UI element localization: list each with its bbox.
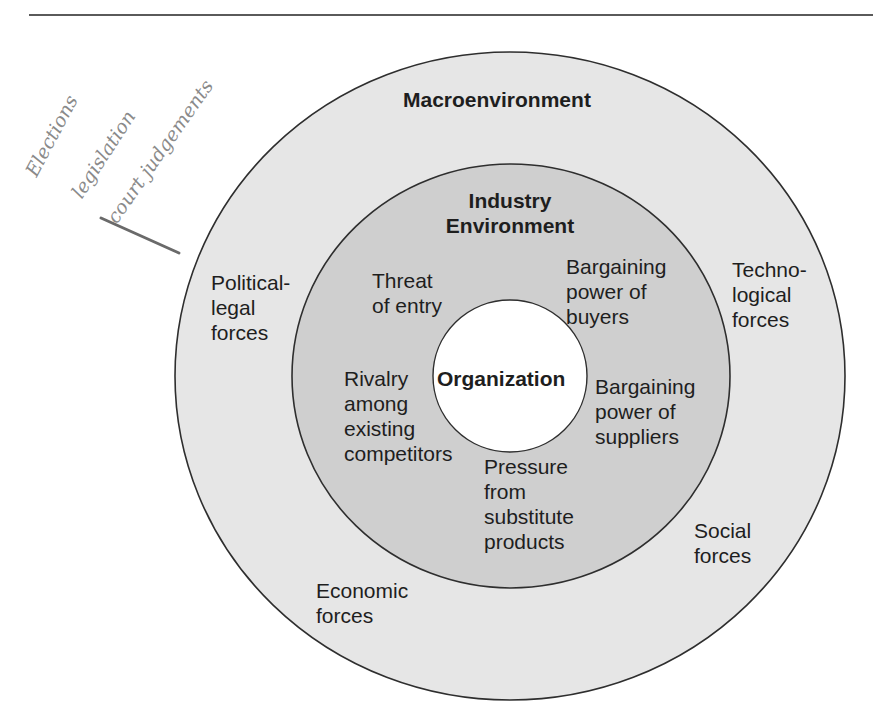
label-line: logical [732,282,807,307]
label-line: substitute [484,504,574,529]
label-line: forces [732,307,807,332]
label-line: legal [211,295,290,320]
label-line: suppliers [595,424,695,449]
rivalry-among-competitors-label: Rivalry among existing competitors [344,366,453,466]
bargaining-power-suppliers-label: Bargaining power of suppliers [595,374,695,449]
threat-of-entry-label: Threat of entry [372,268,442,318]
industry-title-line: Industry [430,188,590,213]
handwritten-bracket-line [101,218,179,253]
label-line: Threat [372,268,442,293]
label-line: Rivalry [344,366,453,391]
technological-forces-label: Techno- logical forces [732,257,807,332]
label-line: Economic [316,578,408,603]
social-forces-label: Social forces [694,518,751,568]
label-line: power of [595,399,695,424]
label-line: products [484,529,574,554]
label-line: competitors [344,441,453,466]
label-line: existing [344,416,453,441]
label-line: among [344,391,453,416]
label-line: forces [211,320,290,345]
organization-title: Organization [437,366,565,391]
label-line: of entry [372,293,442,318]
label-line: Social [694,518,751,543]
label-line: Pressure [484,454,574,479]
bargaining-power-buyers-label: Bargaining power of buyers [566,254,666,329]
label-line: from [484,479,574,504]
label-line: Techno- [732,257,807,282]
economic-forces-label: Economic forces [316,578,408,628]
label-line: forces [694,543,751,568]
political-legal-forces-label: Political- legal forces [211,270,290,345]
macroenvironment-title: Macroenvironment [403,87,591,112]
label-line: buyers [566,304,666,329]
industry-title-line: Environment [430,213,590,238]
pressure-from-substitutes-label: Pressure from substitute products [484,454,574,554]
industry-environment-title: Industry Environment [430,188,590,238]
label-line: Bargaining [595,374,695,399]
label-line: power of [566,279,666,304]
label-line: Political- [211,270,290,295]
label-line: forces [316,603,408,628]
label-line: Bargaining [566,254,666,279]
